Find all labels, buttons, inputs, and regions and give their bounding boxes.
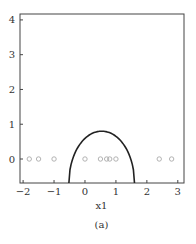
data-point xyxy=(108,157,112,161)
data-point xyxy=(83,157,87,161)
y-tick-label: 2 xyxy=(9,84,15,95)
y-tick-label: 0 xyxy=(9,154,15,165)
x-tick-label: −2 xyxy=(16,186,31,197)
data-point xyxy=(36,157,40,161)
data-point xyxy=(52,157,56,161)
x-tick-label: 1 xyxy=(113,186,119,197)
data-point xyxy=(114,157,118,161)
x-tick-label: 2 xyxy=(144,186,150,197)
y-tick-label: 3 xyxy=(9,49,15,60)
y-tick-label: 1 xyxy=(9,119,15,130)
data-point xyxy=(98,157,102,161)
data-point xyxy=(27,157,31,161)
x-tick-label: −1 xyxy=(47,186,62,197)
x-tick-label: 3 xyxy=(175,186,181,197)
x-axis-label: x1 xyxy=(95,200,107,211)
data-point xyxy=(169,157,173,161)
chart: −2−1012301234x1(a) xyxy=(0,0,196,244)
x-tick-label: 0 xyxy=(82,186,88,197)
figure-caption: (a) xyxy=(95,219,109,230)
data-point xyxy=(157,157,161,161)
y-tick-label: 4 xyxy=(9,14,15,25)
